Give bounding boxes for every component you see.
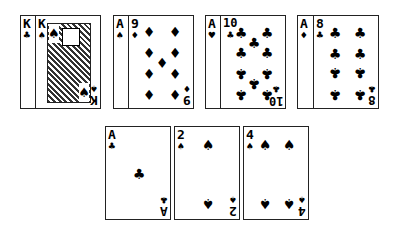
heart-icon: ♥ [208, 30, 216, 41]
card-four-spades[interactable]: 4♠ ♠ ♠ ♠ ♠ 4♠ [243, 126, 309, 220]
club-icon: ♣ [355, 86, 365, 103]
club-icon: ♣ [355, 64, 365, 81]
diamond-icon: ♦ [170, 45, 180, 62]
club-icon: ♣ [355, 25, 365, 42]
card-nine-diamonds[interactable]: 9♦ ♦ ♦ ♦ ♦ ♦ ♦ ♦ ♦ ♦ 9♦ [128, 15, 194, 109]
card-ace-clubs[interactable]: A♣ ♣ A♣ [105, 126, 171, 220]
diamond-icon: ♦ [144, 87, 154, 104]
spade-icon: ♠ [298, 194, 306, 205]
club-icon: ♣ [355, 46, 365, 63]
diamond-icon: ♦ [144, 66, 154, 83]
club-icon: ♣ [23, 30, 31, 41]
club-icon: ♣ [368, 83, 376, 94]
club-icon: ♣ [262, 25, 272, 42]
club-icon: ♣ [236, 65, 246, 82]
club-icon: ♣ [330, 64, 340, 81]
spade-icon: ♠ [260, 195, 270, 212]
spade-icon: ♠ [177, 141, 185, 152]
club-icon: ♣ [249, 35, 259, 52]
club-icon: ♣ [262, 45, 272, 62]
spade-icon: ♠ [284, 137, 294, 154]
spade-icon: ♠ [284, 195, 294, 212]
diamond-icon: ♦ [144, 24, 154, 41]
club-icon: ♣ [236, 86, 246, 103]
club-icon: ♣ [330, 46, 340, 63]
club-icon: ♣ [134, 166, 144, 183]
spade-icon: ♠ [79, 83, 89, 102]
club-icon: ♣ [249, 75, 259, 92]
club-icon: ♣ [236, 25, 246, 42]
diamond-icon: ♦ [170, 24, 180, 41]
card-king-spades[interactable]: K♠ ♠ ♠ K♠ [35, 15, 101, 109]
club-icon: ♣ [160, 194, 168, 205]
card-ten-clubs[interactable]: 10♣ ♣ ♣ ♣ ♣ ♣ ♣ ♣ ♣ ♣ ♣ 10♣ [220, 15, 286, 109]
club-icon: ♣ [316, 30, 324, 41]
club-icon: ♣ [108, 141, 116, 152]
club-icon: ♣ [330, 86, 340, 103]
spade-icon: ♠ [90, 83, 98, 94]
spade-icon: ♠ [246, 141, 254, 152]
diamond-icon: ♦ [144, 45, 154, 62]
spade-icon: ♠ [38, 30, 46, 41]
club-icon: ♣ [236, 45, 246, 62]
spade-icon: ♠ [229, 194, 237, 205]
card-two-spades[interactable]: 2♠ ♠ ♠ 2♠ [174, 126, 240, 220]
club-icon: ♣ [262, 65, 272, 82]
diamond-icon: ♦ [183, 83, 191, 94]
diamond-icon: ♦ [131, 30, 139, 41]
club-icon: ♣ [269, 83, 283, 94]
card-eight-clubs[interactable]: 8♣ ♣ ♣ ♣ ♣ ♣ ♣ ♣ ♣ 8♣ [313, 15, 379, 109]
diamond-icon: ♦ [157, 55, 167, 72]
diamond-icon: ♦ [300, 30, 308, 41]
club-icon: ♣ [330, 25, 340, 42]
spade-icon: ♠ [116, 30, 124, 41]
spade-icon: ♠ [203, 137, 213, 154]
diamond-icon: ♦ [170, 66, 180, 83]
diamond-icon: ♦ [170, 87, 180, 104]
spade-icon: ♠ [49, 24, 59, 43]
spade-icon: ♠ [260, 137, 270, 154]
king-face-icon: ♠ ♠ [47, 23, 91, 103]
king-head-icon [62, 28, 80, 46]
spade-icon: ♠ [203, 195, 213, 212]
